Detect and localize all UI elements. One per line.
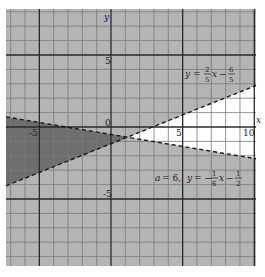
svg-text:−: − — [219, 69, 227, 79]
graph-of-inequalities: y x 0 -5 5 10 5 -5 y = 2 5 x − 6 5 a = 6… — [0, 0, 265, 277]
svg-text:x: x — [212, 69, 217, 79]
svg-text:6: 6 — [229, 66, 234, 74]
svg-text:5: 5 — [229, 76, 233, 84]
tick-y-neg5: -5 — [103, 189, 112, 199]
svg-text:2: 2 — [205, 66, 209, 74]
tick-x-5: 5 — [176, 128, 182, 138]
tick-x-10: 10 — [243, 128, 255, 138]
svg-text:=: = — [193, 69, 201, 79]
svg-text:= −: = − — [194, 173, 212, 183]
svg-text:1: 1 — [212, 170, 216, 178]
svg-text:1: 1 — [236, 170, 240, 178]
tick-x-neg5: -5 — [29, 128, 38, 138]
svg-text:−: − — [226, 173, 234, 183]
svg-text:x: x — [219, 173, 224, 183]
svg-text:y: y — [186, 173, 193, 183]
y-axis-label: y — [103, 12, 110, 22]
svg-text:5: 5 — [205, 76, 209, 84]
svg-text:6: 6 — [212, 180, 217, 188]
x-axis-label: x — [256, 115, 261, 125]
svg-text:a: a — [155, 173, 160, 183]
svg-text:= 6,: = 6, — [162, 173, 181, 183]
tick-y-5: 5 — [105, 56, 111, 66]
svg-text:2: 2 — [236, 180, 240, 188]
svg-text:y: y — [184, 69, 191, 79]
origin-label: 0 — [105, 118, 111, 128]
